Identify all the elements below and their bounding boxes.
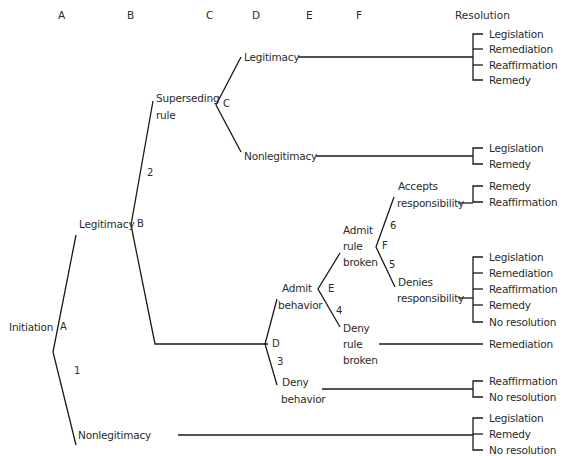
branch-number-6: 6 xyxy=(390,220,396,231)
decision-point-d: D xyxy=(272,338,280,349)
resolution-item: No resolution xyxy=(489,440,556,456)
branch-initiation-legitimacy xyxy=(53,235,76,445)
bracket-nonlegitimacy-c xyxy=(473,148,483,164)
node-nonlegitimacy-a: Nonlegitimacy xyxy=(78,425,151,446)
node-deny-behavior-2: behavior xyxy=(281,389,326,410)
column-header-b: B xyxy=(127,9,134,21)
column-header-resolution: Resolution xyxy=(455,9,510,21)
column-header-d: D xyxy=(252,9,260,21)
branch-legitimacy-superseding xyxy=(131,101,268,344)
bracket-legitimacy-c xyxy=(473,34,483,80)
resolution-item: Remediation xyxy=(489,334,553,355)
node-deny-rule-broken-3: broken xyxy=(343,350,378,371)
node-denies-responsibility-2: responsibility xyxy=(397,288,464,309)
branch-number-3: 3 xyxy=(277,356,283,367)
decision-point-e: E xyxy=(328,283,334,294)
branch-number-1: 1 xyxy=(74,365,80,376)
node-superseding-rule-2: rule xyxy=(156,105,176,126)
node-legitimacy-b: Legitimacy xyxy=(79,214,134,235)
bracket-accepts xyxy=(473,186,483,202)
branch-number-4: 4 xyxy=(336,305,342,316)
decision-point-b: B xyxy=(137,218,144,229)
resolution-item: No resolution xyxy=(489,387,556,408)
bracket-deny-behavior xyxy=(473,381,483,397)
resolution-item: No resolution xyxy=(489,312,556,333)
resolution-item: Reaffirmation xyxy=(489,192,557,213)
node-admit-behavior-2: behavior xyxy=(278,295,323,316)
node-initiation: Initiation xyxy=(9,317,53,338)
node-accepts-responsibility-2: responsibility xyxy=(397,193,464,214)
column-header-a: A xyxy=(58,9,65,21)
column-header-c: C xyxy=(206,9,213,21)
node-admit-rule-broken-3: broken xyxy=(343,252,378,273)
decision-point-a: A xyxy=(60,321,67,332)
resolution-item: Remedy xyxy=(489,154,531,175)
node-nonlegitimacy-c: Nonlegitimacy xyxy=(244,146,317,167)
column-header-e: E xyxy=(306,9,313,21)
node-legitimacy-c: Legitimacy xyxy=(244,47,299,68)
branch-number-5: 5 xyxy=(389,259,395,270)
column-header-f: F xyxy=(356,9,362,21)
decision-point-c: C xyxy=(223,98,230,109)
resolution-item: Remedy xyxy=(489,70,531,91)
branch-number-2: 2 xyxy=(147,167,153,178)
decision-point-f: F xyxy=(382,240,388,251)
